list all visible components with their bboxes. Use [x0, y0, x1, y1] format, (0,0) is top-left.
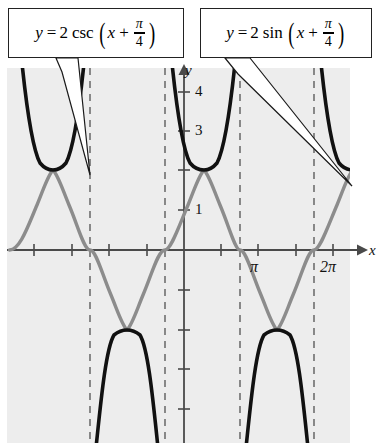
cosecant-eq-fraction-numerator: π — [134, 17, 145, 32]
cosecant-eq-y: y — [35, 24, 44, 41]
cosecant-eq-variable: x — [108, 24, 117, 41]
sine-eq-open-paren: ( — [285, 21, 294, 46]
cosecant-eq-plus: + — [116, 24, 132, 41]
y-tick-label-4: 4 — [195, 83, 203, 100]
cosecant-equation-callout: y = 2 csc ( x + π 4 ) — [8, 8, 184, 58]
x-tick-label-pi: π — [250, 258, 258, 276]
cosecant-eq-amplitude: 2 — [59, 24, 68, 41]
sine-eq-y: y — [226, 24, 235, 41]
y-axis-label: y — [185, 62, 192, 79]
cosecant-eq-open-paren: ( — [96, 21, 105, 46]
cosecant-eq-fraction: π 4 — [134, 17, 145, 48]
sine-eq-fraction: π 4 — [323, 17, 334, 48]
cosecant-eq-equals: = — [44, 24, 60, 41]
sine-eq-variable: x — [297, 24, 306, 41]
y-tick-label-1: 1 — [195, 201, 203, 218]
y-tick-label-3: 3 — [195, 122, 203, 139]
cosecant-eq-close-paren: ) — [149, 21, 155, 46]
cosecant-eq-fraction-denominator: 4 — [134, 34, 145, 49]
x-axis-arrowhead — [357, 245, 368, 256]
sine-equation-callout: y = 2 sin ( x + π 4 ) — [200, 8, 372, 58]
x-axis-label: x — [369, 242, 376, 259]
sine-eq-fraction-numerator: π — [323, 17, 334, 32]
sine-eq-amplitude: 2 — [250, 24, 259, 41]
sine-eq-function: sin — [259, 24, 283, 41]
sine-equation: y = 2 sin ( x + π 4 ) — [226, 17, 346, 48]
sine-eq-fraction-denominator: 4 — [323, 34, 334, 49]
x-tick-label-2pi: 2π — [320, 258, 336, 276]
sine-eq-plus: + — [305, 24, 321, 41]
sine-eq-close-paren: ) — [338, 21, 344, 46]
sine-eq-equals: = — [235, 24, 251, 41]
cosecant-eq-function: csc — [68, 24, 94, 41]
cosecant-equation: y = 2 csc ( x + π 4 ) — [35, 17, 157, 48]
